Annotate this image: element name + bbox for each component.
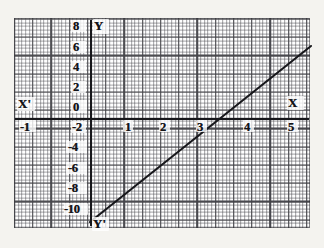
y-tick-label: -10	[64, 203, 80, 216]
y-positive-axis-label: Y	[94, 19, 103, 32]
y-tick-label: 6	[73, 41, 79, 54]
y-tick-label: -4	[68, 141, 78, 154]
y-tick-label: -8	[68, 182, 78, 195]
x-tick-label: 5	[288, 121, 294, 134]
y-negative-axis-label: Y'	[93, 217, 106, 230]
y-axis-line	[90, 20, 92, 226]
y-tick-label: 2	[73, 81, 79, 94]
x-tick-label: 1	[125, 121, 131, 134]
graph-page: 8 6 4 2 0 -2 -4 -6 -8 -10 -1 1 2 3 4 5 X…	[0, 0, 324, 248]
x-tick-label: 4	[244, 121, 250, 134]
y-tick-label: 8	[73, 20, 79, 33]
y-tick-label: -6	[68, 162, 78, 175]
y-tick-label: -2	[72, 121, 82, 134]
x-tick-label: 3	[197, 121, 203, 134]
x-tick-label: -1	[20, 121, 30, 134]
x-negative-axis-label: X'	[18, 97, 31, 110]
y-tick-label: 4	[73, 61, 79, 74]
x-tick-label: 2	[160, 121, 166, 134]
y-tick-label-origin: 0	[73, 101, 79, 114]
x-positive-axis-label: X	[288, 96, 297, 109]
